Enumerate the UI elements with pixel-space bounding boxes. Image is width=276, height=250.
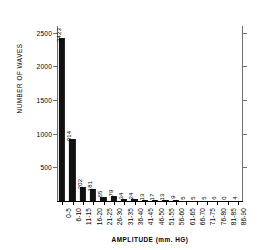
x-axis-title: AMPLITUDE (mm. HG): [57, 236, 243, 243]
bar-value-label: 914: [66, 131, 72, 141]
bar-value-label: 65: [97, 190, 103, 197]
bar-group: 181: [88, 26, 98, 201]
x-tick-label: 71-75: [209, 208, 216, 225]
bar-group: 9: [171, 26, 181, 201]
x-tick-label: 61-65: [189, 208, 196, 225]
x-tick-label: 6-10: [75, 208, 82, 222]
x-tick-mark: [217, 201, 218, 205]
bar-value-label: 13: [139, 194, 145, 201]
x-axis-line: [57, 201, 243, 202]
x-tick-mark: [155, 201, 156, 205]
bar-group: 914: [67, 26, 77, 201]
x-tick-label: 51-55: [168, 208, 175, 225]
bar-value-label: 2423: [56, 28, 62, 42]
bar-value-label: 24: [128, 193, 134, 200]
bar-value-label: 9: [170, 196, 176, 199]
x-tick-label: 31-35: [127, 208, 134, 225]
x-tick-label: 26-30: [116, 208, 123, 225]
x-tick-mark: [114, 201, 115, 205]
bar-group: 5: [191, 26, 201, 201]
bar-group: 79: [109, 26, 119, 201]
x-tick-label: 56-60: [178, 208, 185, 225]
bar-value-label: 34: [118, 192, 124, 199]
bar-value-label: 5: [201, 196, 207, 199]
bar-value-label: 17: [149, 193, 155, 200]
plot-area: 5001000150020002500 24239142021816579342…: [57, 26, 243, 201]
bar-chart: NUMBER OF WAVES 5001000150020002500 2423…: [0, 0, 276, 250]
y-tick-label: 1000: [37, 130, 52, 137]
x-tick-mark: [104, 201, 105, 205]
x-tick-mark: [207, 201, 208, 205]
y-tick-mark-right: [243, 134, 247, 135]
bar-value-label: 0: [221, 196, 227, 199]
x-tick-mark: [238, 201, 239, 205]
bar-group: 13: [140, 26, 150, 201]
y-tick-label: 2500: [37, 29, 52, 36]
bar-value-label: 5: [180, 196, 186, 199]
bar-series: 2423914202181657934241317139555604: [57, 26, 243, 201]
bar-value-label: 202: [77, 179, 83, 189]
x-tick-label: 41-45: [147, 208, 154, 225]
bar: [80, 187, 86, 201]
bar: [69, 139, 75, 201]
bar-value-label: 13: [159, 194, 165, 201]
x-tick-mark: [124, 201, 125, 205]
x-tick-label: 16-20: [96, 208, 103, 225]
x-tick-label: 76-80: [220, 208, 227, 225]
bar-group: 0: [222, 26, 232, 201]
y-tick-label: 1500: [37, 97, 52, 104]
bar-group: 17: [150, 26, 160, 201]
x-tick-mark: [176, 201, 177, 205]
x-tick-mark: [197, 201, 198, 205]
y-axis-title: NUMBER OF WAVES: [16, 29, 23, 129]
bar-group: 2423: [57, 26, 67, 201]
x-tick-mark: [228, 201, 229, 205]
y-tick-mark-right: [243, 66, 247, 67]
bar-group: 34: [119, 26, 129, 201]
x-tick-mark: [135, 201, 136, 205]
x-tick-mark: [145, 201, 146, 205]
bar-group: 13: [160, 26, 170, 201]
bar-group: 24: [129, 26, 139, 201]
y-tick-mark-right: [243, 100, 247, 101]
x-tick-label: 0-5: [65, 208, 72, 218]
x-tick-mark: [93, 201, 94, 205]
x-tick-label: 11-15: [85, 208, 92, 225]
y-tick-label: 500: [40, 164, 52, 171]
x-tick-label: 81-85: [230, 208, 237, 225]
y-tick-mark-right: [243, 167, 247, 168]
bar-group: 202: [78, 26, 88, 201]
x-tick-label: 46-50: [158, 208, 165, 225]
bar-group: 4: [233, 26, 243, 201]
bar-group: 5: [202, 26, 212, 201]
x-tick-label: 86-90: [240, 208, 247, 225]
bar-value-label: 6: [211, 196, 217, 199]
bar-value-label: 181: [87, 181, 93, 191]
x-tick-mark: [186, 201, 187, 205]
y-tick-mark-right: [243, 33, 247, 34]
x-tick-label: 36-40: [137, 208, 144, 225]
bar-group: 65: [98, 26, 108, 201]
x-tick-mark: [83, 201, 84, 205]
bar-group: 5: [181, 26, 191, 201]
x-tick-mark: [166, 201, 167, 205]
x-tick-mark: [62, 201, 63, 205]
bar-value-label: 5: [190, 196, 196, 199]
bar: [59, 38, 65, 201]
bar-value-label: 79: [108, 189, 114, 196]
bar-group: 6: [212, 26, 222, 201]
x-tick-label: 21-25: [106, 208, 113, 225]
y-tick-label: 2000: [37, 63, 52, 70]
bar-value-label: 4: [232, 196, 238, 199]
x-tick-label: 66-70: [199, 208, 206, 225]
x-tick-mark: [73, 201, 74, 205]
